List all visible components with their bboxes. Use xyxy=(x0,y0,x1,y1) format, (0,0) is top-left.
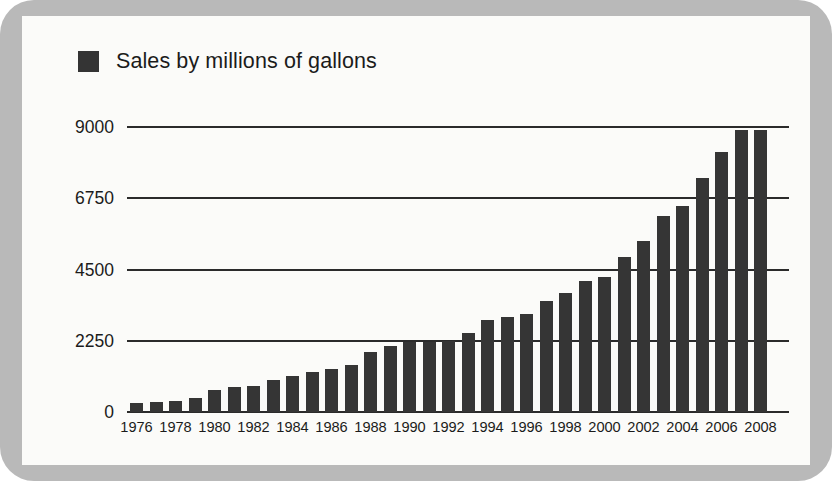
bar xyxy=(676,206,689,412)
bar xyxy=(423,342,436,412)
x-axis-tick-label: 2008 xyxy=(744,419,776,435)
bar xyxy=(481,320,494,412)
x-axis-tick-label: 1980 xyxy=(198,419,230,435)
x-axis-tick-label: 1976 xyxy=(120,419,152,435)
bar xyxy=(306,372,319,412)
bar xyxy=(364,352,377,412)
y-axis-tick-label: 0 xyxy=(42,402,114,423)
bar xyxy=(520,314,533,412)
bar xyxy=(189,398,202,412)
x-axis-tick-label: 2002 xyxy=(627,419,659,435)
bar xyxy=(715,152,728,412)
bar xyxy=(579,281,592,412)
y-axis-tick-label: 9000 xyxy=(42,117,114,138)
bar xyxy=(403,342,416,412)
x-axis-tick-label: 1978 xyxy=(159,419,191,435)
bar xyxy=(384,346,397,413)
x-axis-tick-label: 1984 xyxy=(276,419,308,435)
bar xyxy=(754,130,767,412)
x-axis-tick-label: 2000 xyxy=(588,419,620,435)
bar xyxy=(462,333,475,412)
bar xyxy=(657,216,670,412)
x-axis-tick-label: 1998 xyxy=(549,419,581,435)
y-axis-tick-label: 4500 xyxy=(42,259,114,280)
bar xyxy=(286,376,299,412)
bar xyxy=(228,387,241,412)
bar xyxy=(598,277,611,412)
gridline xyxy=(127,340,789,342)
bar xyxy=(501,317,514,412)
x-axis-tick-label: 1994 xyxy=(471,419,503,435)
x-axis-tick-label: 2006 xyxy=(705,419,737,435)
bar xyxy=(169,401,182,412)
gridline xyxy=(127,126,789,128)
bar xyxy=(540,301,553,412)
bar xyxy=(735,130,748,412)
bar xyxy=(618,257,631,412)
bar xyxy=(442,341,455,412)
bar xyxy=(559,293,572,412)
x-axis-tick-label: 1986 xyxy=(315,419,347,435)
chart-card: Sales by millions of gallons 02250450067… xyxy=(22,16,810,465)
gridline xyxy=(127,197,789,199)
y-axis-tick-label: 6750 xyxy=(42,188,114,209)
bar xyxy=(150,402,163,412)
x-axis-baseline xyxy=(127,411,789,413)
x-axis-tick-label: 1996 xyxy=(510,419,542,435)
outer-frame: Sales by millions of gallons 02250450067… xyxy=(0,0,832,481)
x-axis-tick-label: 1990 xyxy=(393,419,425,435)
bar xyxy=(637,241,650,412)
bar xyxy=(247,386,260,412)
bar xyxy=(267,380,280,412)
gridline xyxy=(127,269,789,271)
x-axis-tick-label: 2004 xyxy=(666,419,698,435)
y-axis-tick-label: 2250 xyxy=(42,330,114,351)
bar xyxy=(208,390,221,412)
bar xyxy=(325,369,338,412)
x-axis-tick-label: 1992 xyxy=(432,419,464,435)
bar xyxy=(130,403,143,412)
bar xyxy=(696,178,709,412)
bar-chart-plot: 0225045006750900019761978198019821984198… xyxy=(22,16,810,465)
x-axis-tick-label: 1988 xyxy=(354,419,386,435)
bar xyxy=(345,365,358,413)
x-axis-tick-label: 1982 xyxy=(237,419,269,435)
